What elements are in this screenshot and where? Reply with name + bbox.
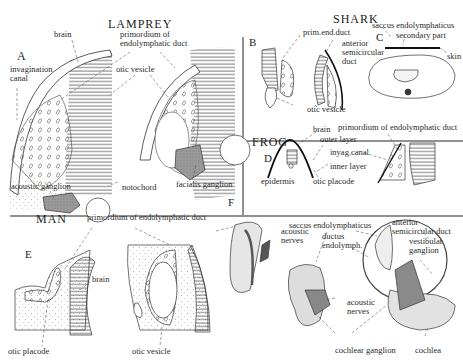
label-lamprey-acoustic-ganglion: acoustic ganglion: [11, 182, 71, 191]
label-man-cochlear-ganglion: cochlear ganglion: [335, 346, 396, 355]
label-frog-brain: brain: [313, 125, 330, 134]
label-man-saccus-endolymphaticus: saccus endolymphaticus: [289, 221, 371, 230]
panel-letter-a: A: [17, 49, 26, 64]
panel-letter-b: B: [249, 36, 256, 48]
label-frog-outer-layer: outer layer: [320, 135, 357, 144]
label-frog-primordium: primordium of endolymphatic duct: [338, 123, 457, 132]
label-frog-invag-canal: inyag.canal: [330, 148, 369, 157]
lamprey-section-right: [140, 48, 250, 201]
label-man-cochlea: cochlea: [415, 346, 441, 355]
label-shark-otic-vesicle: otic vesicle: [307, 105, 345, 114]
label-lamprey-facialis-ganglion: facialis ganglion: [176, 180, 232, 189]
label-man-otic-placode: otic placode: [8, 347, 49, 356]
man-title: MAN: [36, 212, 67, 227]
label-lamprey-notochord: notochord: [122, 183, 156, 192]
label-lamprey-primordium: primordium of endolymphatic duct: [120, 30, 187, 48]
label-man-brain: brain: [92, 275, 109, 284]
label-man-acoustic-nerves-lower: acoustic nerves: [347, 298, 375, 316]
label-man-otic-vesicle: otic vesicle: [132, 347, 170, 356]
label-shark-anterior-semicircular-duct: anterior semicircular duct: [342, 39, 384, 66]
label-frog-epidermis: epidermis: [261, 177, 295, 186]
label-frog-inner-layer: inner layer: [330, 162, 367, 171]
label-shark-secondary-part: secondary part: [396, 31, 446, 40]
label-shark-skin: skin: [447, 52, 461, 61]
label-shark-saccus-endolymphaticus: saccus endolymphaticus: [372, 21, 454, 30]
man-section-e: [15, 245, 210, 335]
label-lamprey-brain: brain: [54, 30, 71, 39]
label-man-primordium: primordium of endolymphatic duct: [87, 213, 206, 222]
panel-letter-f: F: [228, 196, 234, 208]
label-man-vestibular-ganglion: vestibular ganglion: [409, 237, 443, 255]
panel-letter-e: E: [25, 248, 32, 260]
shark-section-b: [262, 48, 342, 110]
label-lamprey-otic-vesicle: otic vesicle: [116, 65, 154, 74]
label-frog-otic-placode: otic placode: [313, 177, 354, 186]
label-shark-prim-end-duct: prim.end.duct: [303, 28, 350, 37]
label-man-anterior-semicircular-duct: anterior semicircular duct: [392, 218, 451, 236]
panel-letter-d: D: [264, 152, 272, 164]
label-man-ductus-endolymph: ductus endolymph.: [322, 232, 362, 250]
frog-title: FROG: [252, 135, 288, 150]
label-lamprey-invagination-canal: invagination canal: [10, 65, 53, 83]
